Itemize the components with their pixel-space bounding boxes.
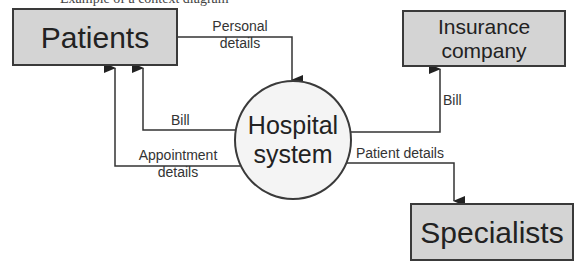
process-label-line2: system <box>248 140 338 169</box>
label-personal-details: Personal details <box>200 18 280 52</box>
entity-insurance-company: Insurance company <box>402 10 566 67</box>
entity-specialists-label: Specialists <box>420 216 563 249</box>
process-hospital-system: Hospital system <box>234 80 352 200</box>
label-appointment-details: Appointment details <box>122 147 234 181</box>
entity-patients-label: Patients <box>41 21 149 54</box>
label-patient-details: Patient details <box>356 145 444 162</box>
process-label-line1: Hospital <box>248 111 338 140</box>
flow-patient-details <box>347 163 454 201</box>
entity-specialists: Specialists <box>410 203 574 261</box>
entity-insurance-label: Insurance company <box>414 15 554 61</box>
label-appointment-line2: details <box>122 164 234 181</box>
label-personal-line2: details <box>200 35 280 52</box>
entity-patients: Patients <box>12 8 178 66</box>
label-personal-line1: Personal <box>200 18 280 35</box>
label-bill-insurance: Bill <box>443 92 462 109</box>
label-appointment-line1: Appointment <box>122 147 234 164</box>
flow-bill-insurance <box>350 69 440 132</box>
label-bill-patients: Bill <box>171 112 190 129</box>
flow-bill-patients <box>143 68 238 130</box>
